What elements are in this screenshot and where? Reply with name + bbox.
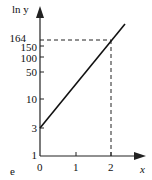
y-tick-label-1: 1: [7, 150, 37, 161]
y-tick-label-3: 3: [7, 123, 37, 134]
panel-label: e: [10, 166, 15, 177]
x-axis-label: x: [140, 164, 145, 175]
x-tick-label-0: 0: [37, 162, 43, 173]
y-tick-label-10: 10: [7, 94, 37, 105]
y-axis-arrow-icon: [36, 6, 44, 18]
x-axis-arrow-icon: [134, 152, 146, 160]
x-tick-label-2: 2: [108, 162, 114, 173]
y-axis-label: ln y: [12, 4, 29, 15]
y-tick-label-100: 100: [7, 53, 37, 64]
x-tick-label-1: 1: [73, 162, 79, 173]
y-tick-label-50: 50: [7, 67, 37, 78]
